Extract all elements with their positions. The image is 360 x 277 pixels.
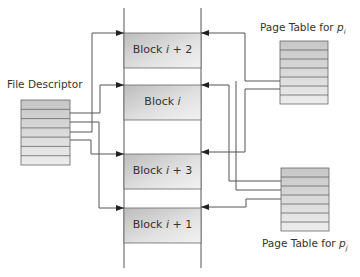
file-descriptor-table xyxy=(21,100,70,165)
block-label-var: i xyxy=(178,95,181,108)
block-label-suffix: + 2 xyxy=(169,43,192,56)
pj-pointer-to-block-i-plus-1 xyxy=(201,199,281,207)
pj-pointer-to-block-i-plus-3-path xyxy=(236,81,281,190)
fd-pointer-to-block-i-plus-1 xyxy=(70,122,124,208)
page-table-pj-label-prefix: Page Table for xyxy=(262,237,339,249)
block-label-suffix: + 3 xyxy=(169,164,192,177)
page-table-pi-pointers xyxy=(201,33,280,152)
page-table-pi-label-prefix: Page Table for xyxy=(260,21,337,33)
file-descriptor-pointers xyxy=(70,33,124,208)
page-table-pj-label-var: p xyxy=(339,237,346,249)
page-table-pj xyxy=(281,168,329,231)
block-i-plus-1-label: Block i + 1 xyxy=(124,218,201,231)
block-label-prefix: Block xyxy=(144,95,177,108)
pi-pointer-to-block-i-plus-3 xyxy=(201,89,280,152)
block-i-plus-3-label: Block i + 3 xyxy=(124,164,201,177)
pi-pointer-to-block-i-plus-2 xyxy=(201,33,280,81)
block-label-prefix: Block xyxy=(133,43,166,56)
page-table-pj-label: Page Table for pj xyxy=(262,237,348,252)
pj-pointer-to-block-i xyxy=(201,85,281,181)
file-descriptor-label: File Descriptor xyxy=(7,78,82,90)
diagram-canvas xyxy=(0,0,360,277)
disk-blocks xyxy=(124,33,201,243)
block-label-prefix: Block xyxy=(133,218,166,231)
fd-pointer-to-block-i-plus-3 xyxy=(70,140,124,154)
page-table-pj-pointers xyxy=(201,81,281,207)
block-i-plus-2-label: Block i + 2 xyxy=(124,43,201,56)
page-table-pi-label-sub: i xyxy=(344,28,346,36)
page-table-pi xyxy=(280,41,328,104)
page-table-pj-label-sub: j xyxy=(346,244,348,252)
page-table-pi-label: Page Table for pi xyxy=(260,21,346,36)
block-label-suffix: + 1 xyxy=(169,218,192,231)
block-label-prefix: Block xyxy=(133,164,166,177)
page-table-pi-label-var: p xyxy=(337,21,344,33)
block-i-label: Block i xyxy=(124,95,201,108)
